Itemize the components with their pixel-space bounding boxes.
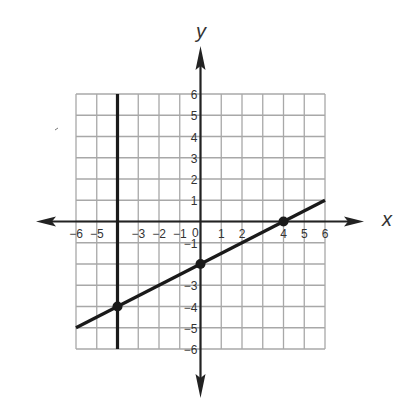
point-marker — [196, 259, 206, 269]
y-tick-label: 2 — [191, 173, 198, 187]
x-tick-label: 5 — [301, 227, 308, 241]
coordinate-plane: −6−5−3−2−112456654321−1−3−4−5−6 y x 0 — [0, 0, 412, 403]
y-tick-label: 4 — [191, 131, 198, 145]
x-tick-label: −3 — [131, 227, 145, 241]
y-tick-label: 5 — [191, 109, 198, 123]
point-marker — [113, 302, 123, 312]
y-axis-label: y — [194, 20, 207, 42]
x-tick-label: 2 — [239, 227, 246, 241]
y-tick-label: −6 — [184, 343, 198, 357]
y-tick-label: −5 — [184, 322, 198, 336]
x-tick-label: 6 — [322, 227, 329, 241]
x-tick-label: −2 — [152, 227, 166, 241]
y-tick-label: −3 — [184, 279, 198, 293]
axes — [36, 46, 364, 398]
origin-label: 0 — [192, 226, 199, 240]
x-tick-label: −6 — [69, 227, 83, 241]
x-tick-label: −5 — [90, 227, 104, 241]
x-axis-label: x — [381, 208, 393, 230]
x-tick-label: 1 — [218, 227, 225, 241]
y-tick-label: −4 — [184, 301, 198, 315]
point-marker — [279, 217, 289, 227]
stray-mark — [55, 128, 58, 130]
x-tick-label: 4 — [280, 227, 287, 241]
y-tick-label: 1 — [191, 194, 198, 208]
y-tick-label: 3 — [191, 152, 198, 166]
y-tick-label: 6 — [191, 88, 198, 102]
